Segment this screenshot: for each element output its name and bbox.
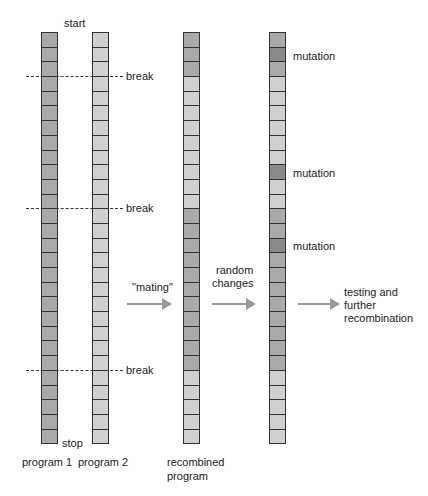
instruction-cell [184,77,199,92]
instruction-cell [42,415,57,430]
instruction-cell [42,371,57,386]
instruction-cell [270,180,285,195]
instruction-cell [270,151,285,166]
instruction-cell [93,165,108,180]
instruction-cell [184,253,199,268]
instruction-cell [42,62,57,77]
instruction-cell [42,151,57,166]
instruction-cell [270,224,285,239]
instruction-cell [184,106,199,121]
instruction-cell [270,297,285,312]
instruction-cell [270,415,285,430]
instruction-cell [184,62,199,77]
recombined-label-2: program [167,470,208,483]
instruction-cell [93,151,108,166]
recombined-program-column [183,32,200,444]
instruction-cell [184,165,199,180]
instruction-cell [93,386,108,401]
instruction-cell [93,371,108,386]
instruction-cell [184,48,199,63]
instruction-cell [93,136,108,151]
instruction-cell [93,356,108,371]
instruction-cell [42,209,57,224]
recombined-label-1: recombined [167,456,224,469]
instruction-cell [184,430,199,444]
instruction-cell [42,356,57,371]
start-label: start [64,17,85,30]
testing-label-1: testing and [344,286,398,299]
instruction-cell [42,239,57,254]
instruction-cell [42,312,57,327]
random-label-2: changes [212,277,254,290]
instruction-cell [93,209,108,224]
instruction-cell [93,297,108,312]
instruction-cell [42,341,57,356]
instruction-cell [270,341,285,356]
break-line-2 [26,208,123,209]
instruction-cell [184,386,199,401]
instruction-cell [184,121,199,136]
break-label-2: break [126,202,154,215]
instruction-cell [42,77,57,92]
instruction-cell [270,371,285,386]
instruction-cell [184,400,199,415]
instruction-cell [93,121,108,136]
instruction-cell [270,386,285,401]
instruction-cell [42,386,57,401]
instruction-cell [270,195,285,210]
instruction-cell [270,312,285,327]
instruction-cell [42,165,57,180]
instruction-cell [270,430,285,444]
break-label-3: break [126,364,154,377]
instruction-cell [93,180,108,195]
instruction-cell [42,180,57,195]
instruction-cell [184,136,199,151]
instruction-cell [184,312,199,327]
instruction-cell [93,327,108,342]
instruction-cell [42,121,57,136]
program-1-column [41,32,58,444]
instruction-cell [42,106,57,121]
instruction-cell [184,224,199,239]
instruction-cell [184,195,199,210]
instruction-cell [42,327,57,342]
instruction-cell [184,151,199,166]
break-line-3 [26,370,123,371]
instruction-cell [270,121,285,136]
mutation-label-2: mutation [293,167,335,180]
instruction-cell [270,33,285,48]
instruction-cell [270,327,285,342]
instruction-cell [42,136,57,151]
mutation-label-1: mutation [293,50,335,63]
instruction-cell [184,268,199,283]
instruction-cell [93,92,108,107]
instruction-cell [93,268,108,283]
break-line-1 [26,76,123,77]
instruction-cell [93,33,108,48]
instruction-cell [184,327,199,342]
instruction-cell [184,356,199,371]
instruction-cell [93,341,108,356]
instruction-cell [270,209,285,224]
random-changes-arrow [212,303,254,305]
instruction-cell [270,400,285,415]
instruction-cell [93,430,108,444]
break-label-1: break [126,70,154,83]
stop-label: stop [62,437,83,450]
mutation-cell [270,165,285,180]
instruction-cell [93,415,108,430]
instruction-cell [42,268,57,283]
instruction-cell [270,62,285,77]
instruction-cell [270,268,285,283]
testing-label-3: recombination [344,312,413,325]
instruction-cell [42,92,57,107]
mutation-cell [270,48,285,63]
instruction-cell [42,253,57,268]
instruction-cell [93,62,108,77]
instruction-cell [93,312,108,327]
instruction-cell [270,253,285,268]
instruction-cell [184,415,199,430]
instruction-cell [42,283,57,298]
testing-arrow [298,303,338,305]
instruction-cell [184,33,199,48]
